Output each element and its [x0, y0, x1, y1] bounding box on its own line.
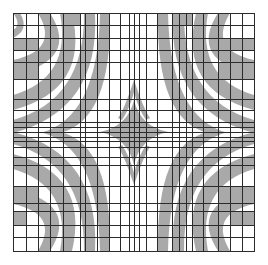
cell-fill: [13, 211, 26, 225]
op-art-canvas: [0, 0, 268, 265]
cell-fill: [13, 38, 38, 50]
